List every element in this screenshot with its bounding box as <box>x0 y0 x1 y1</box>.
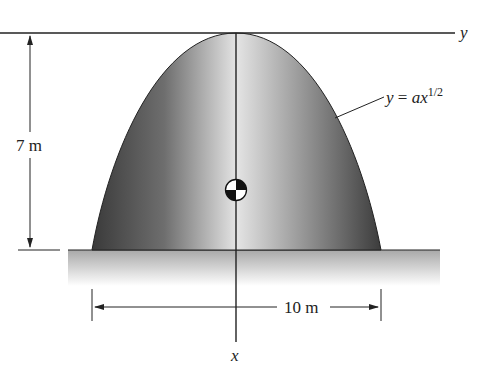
diagram-canvas: y x 7 m 10 m y = ax1/2 <box>0 0 477 375</box>
ground <box>68 250 440 286</box>
x-axis-label: x <box>230 346 239 365</box>
equation-leader-line <box>335 97 384 118</box>
width-dimension-label: 10 m <box>284 298 318 317</box>
curve-equation-label: y = ax1/2 <box>384 85 443 107</box>
equation-coef: ax <box>412 88 429 107</box>
equation-lhs: y <box>384 88 394 107</box>
y-axis-label: y <box>458 23 468 42</box>
equation-exponent: 1/2 <box>428 85 443 99</box>
centroid-icon <box>226 180 247 201</box>
equation-equals: = <box>394 88 412 107</box>
height-dimension-label: 7 m <box>16 136 42 155</box>
